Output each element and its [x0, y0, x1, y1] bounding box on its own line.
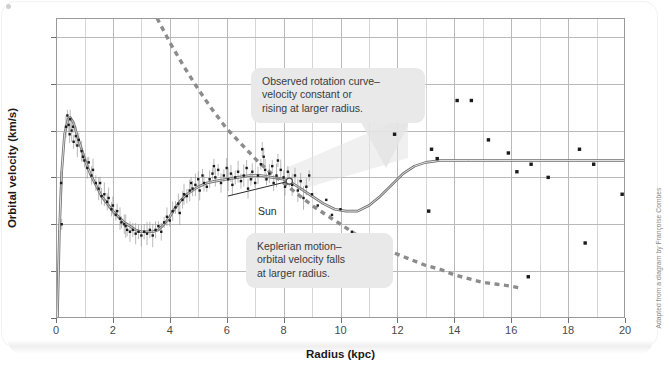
x-tick-label: 16: [496, 324, 526, 336]
x-tick-label: 10: [326, 324, 356, 336]
x-tick-label: 18: [553, 324, 583, 336]
y-tick-mark: [51, 177, 56, 178]
x-tick-label: 12: [382, 324, 412, 336]
callout-keplerian-motion: Keplerian motion– orbital velocity falls…: [246, 233, 393, 288]
x-tick-mark: [625, 318, 626, 323]
x-tick-mark: [227, 318, 228, 323]
rotation-curve-figure: 150175200225250275300 02468101214161820 …: [0, 0, 669, 370]
x-axis-label: Radius (kpc): [306, 348, 375, 360]
y-tick-mark: [51, 271, 56, 272]
x-tick-mark: [568, 318, 569, 323]
x-tick-mark: [284, 318, 285, 323]
x-tick-label: 2: [98, 324, 128, 336]
x-tick-label: 14: [439, 324, 469, 336]
attribution-text: Adapted from a diagram by Françoise Comb…: [655, 188, 662, 329]
x-tick-mark: [341, 318, 342, 323]
x-tick-mark: [170, 318, 171, 323]
x-tick-label: 6: [212, 324, 242, 336]
x-tick-mark: [113, 318, 114, 323]
x-tick-label: 8: [269, 324, 299, 336]
y-tick-mark: [51, 224, 56, 225]
x-tick-mark: [397, 318, 398, 323]
y-tick-mark: [51, 37, 56, 38]
x-tick-label: 0: [41, 324, 71, 336]
x-tick-label: 4: [155, 324, 185, 336]
x-tick-label: 20: [610, 324, 640, 336]
x-tick-mark: [511, 318, 512, 323]
x-tick-mark: [454, 318, 455, 323]
callout-observed-rotation-curve: Observed rotation curve– velocity consta…: [251, 68, 425, 123]
y-tick-mark: [51, 84, 56, 85]
corner-dot-icon: [6, 4, 11, 9]
sun-annotation-label: Sun: [258, 205, 277, 217]
plot-area: 150175200225250275300 02468101214161820 …: [56, 18, 625, 318]
x-tick-mark: [56, 318, 57, 323]
y-axis-label: Orbital velocity (km/s): [6, 108, 18, 228]
y-tick-mark: [51, 131, 56, 132]
